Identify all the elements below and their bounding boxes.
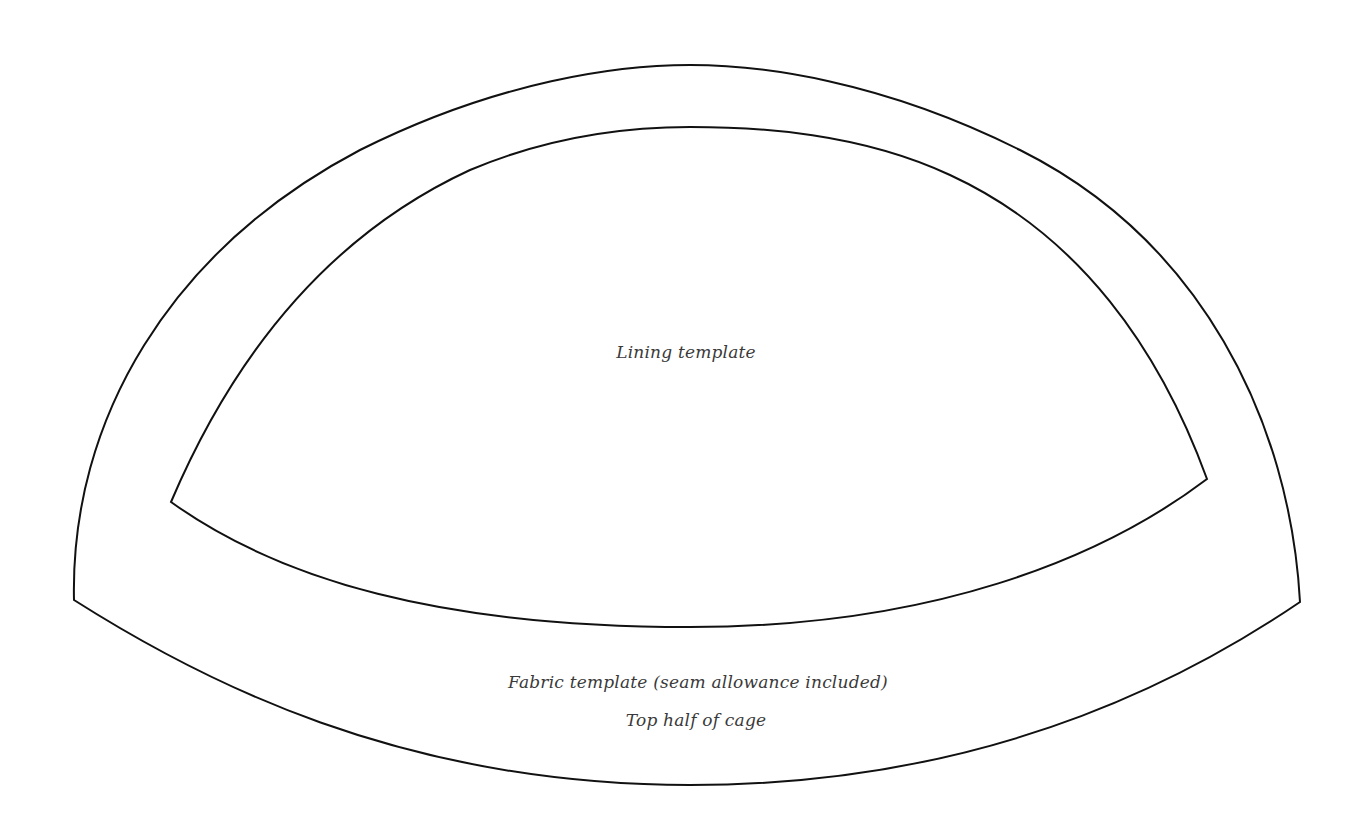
lining-template-label: Lining template [616, 342, 756, 362]
part-name-label: Top half of cage [626, 710, 767, 730]
lining-template-outline [171, 127, 1207, 627]
pattern-diagram [0, 0, 1371, 823]
fabric-template-label: Fabric template (seam allowance included… [508, 672, 888, 692]
